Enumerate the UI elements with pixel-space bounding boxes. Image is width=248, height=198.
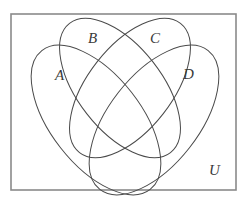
set-b-label: B [88,30,97,46]
venn-diagram: A B C D U [0,0,248,198]
set-d-label: D [182,66,194,82]
universe-rectangle [11,14,236,190]
universe-label: U [209,162,221,178]
set-a-ellipse [6,23,185,198]
set-a-label: A [54,67,65,83]
set-c-label: C [150,30,161,46]
